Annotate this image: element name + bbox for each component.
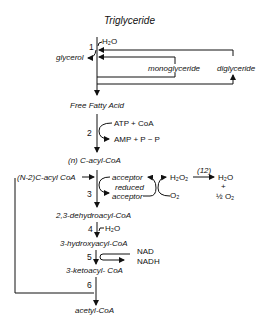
n-acyl-coa-label: (n) C-acyl-CoA (68, 156, 121, 165)
glycerol-label: glycerol (56, 53, 84, 62)
half-o2-label: ½ O₂ (216, 192, 234, 201)
to-monoglyceride-line (97, 73, 175, 77)
reduced-acceptor-label: acceptor (112, 192, 143, 201)
step-label-12: (12) (197, 166, 212, 175)
diglyceride-return-arrow (99, 50, 233, 56)
diglyceride-label: diglyceride (217, 64, 256, 73)
monoglyceride-label: monoglyceride (148, 64, 201, 73)
nad-nadh-loop (100, 254, 130, 260)
dehydroacyl-coa-label: 2,3-dehydroacyl-CoA (55, 211, 131, 220)
step-label-1: 1 (89, 42, 94, 52)
step-label-5: 5 (87, 252, 92, 262)
plus-sign: + (221, 182, 226, 191)
nad-label: NAD (137, 247, 154, 256)
h2o-reactant-step4: H₂O (105, 224, 120, 233)
nadh-label: NADH (137, 257, 160, 266)
to-diglyceride-arrow (97, 75, 233, 84)
beta-oxidation-pathway-diagram: Triglyceride 1 H₂O glycerol monoglycerid… (0, 0, 272, 327)
atp-amp-curve (99, 123, 112, 139)
n2-acyl-coa-label: (N-2)C-acyl CoA (17, 173, 76, 182)
acceptor-label: acceptor (112, 173, 143, 182)
step-label-4: 4 (88, 224, 93, 234)
step-label-2: 2 (87, 128, 92, 138)
reduced-label: reduced (115, 183, 144, 192)
step-label-3: 3 (87, 189, 92, 199)
h2o-input-step4 (99, 228, 104, 231)
monoglyceride-return-arrow (99, 57, 175, 64)
step-label-6: 6 (87, 280, 92, 290)
title-triglyceride: Triglyceride (104, 15, 155, 26)
h2o-reactant-1: H₂O (102, 37, 117, 46)
o2-label: O₂ (170, 191, 179, 200)
free-fatty-acid-label: Free Fatty Acid (70, 101, 124, 110)
o2-to-h2o2-curve (158, 177, 170, 196)
hydroxyacyl-coa-label: 3-hydroxyacyl-CoA (60, 239, 128, 248)
atp-coa-label: ATP + CoA (114, 119, 154, 128)
acetyl-coa-label: acetyl-CoA (75, 306, 114, 315)
recycle-loop-line (15, 178, 94, 293)
acceptor-curve (99, 177, 110, 193)
amp-ppi-label: AMP + P ~ P (114, 135, 160, 144)
h2o-product-label: H₂O (218, 173, 233, 182)
ketoacyl-coa-label: 3-ketoacyl- CoA (66, 266, 123, 275)
h2o2-label: H₂O₂ (170, 173, 188, 182)
reoxidation-curve (143, 177, 156, 196)
